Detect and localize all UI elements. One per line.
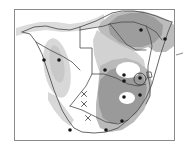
station-dot	[122, 73, 126, 77]
station-dot	[122, 95, 126, 99]
hole-freestate	[119, 92, 135, 104]
station-dot	[68, 128, 72, 132]
station-dot	[120, 119, 124, 123]
station-dot	[103, 68, 107, 72]
right-edge-tick	[176, 53, 183, 55]
station-dot	[138, 76, 142, 80]
station-dot	[138, 93, 142, 97]
station-dot	[139, 28, 143, 32]
figure-container: Southern Africa shaded contour map South…	[0, 0, 185, 149]
hole-botswana	[116, 62, 140, 78]
station-dot	[57, 58, 61, 62]
southern-africa-map	[0, 0, 185, 149]
station-dot	[104, 128, 108, 132]
station-dot	[163, 37, 167, 41]
station-dot	[122, 79, 126, 83]
station-dot	[42, 58, 46, 62]
